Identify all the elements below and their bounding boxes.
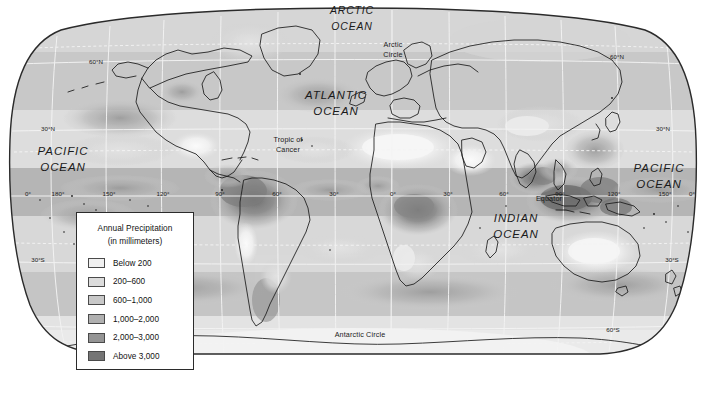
arctic-ocean-line2: OCEAN: [331, 20, 372, 32]
lon-30-west: 30°: [329, 190, 339, 197]
lon-120-west: 120°: [157, 190, 170, 197]
legend-row: 200–600: [88, 273, 193, 292]
lon-180-east: 0°: [689, 190, 695, 197]
tropic-of-cancer-line2: Cancer: [276, 145, 301, 154]
lon-90-west: 90°: [215, 190, 225, 197]
legend-swatch: [88, 333, 105, 343]
lat-30n-right: 30°N: [656, 125, 670, 132]
legend-label: 2,000–3,000: [113, 333, 159, 342]
antarctic-circle-line1: Antarctic Circle: [335, 330, 386, 339]
lon-120-east: 120°: [608, 190, 621, 197]
lat-30s-right: 30°S: [665, 256, 678, 263]
legend-row: 600–1,000: [88, 291, 193, 310]
legend-row: Above 3,000: [88, 347, 193, 366]
legend-swatch: [88, 314, 105, 324]
legend-label: 200–600: [113, 277, 145, 286]
lon-90-east: 90°: [555, 190, 565, 197]
legend-swatch: [88, 277, 105, 287]
lat-60n-left: 60°N: [89, 58, 103, 65]
indian-ocean-line1: INDIAN: [494, 212, 538, 224]
legend-swatch: [88, 258, 105, 268]
lon-60-west: 60°: [272, 190, 282, 197]
legend-title: Annual Precipitation (in millimeters): [77, 213, 193, 247]
arctic-circle-line1: Arctic: [384, 40, 403, 49]
legend-row: Below 200: [88, 254, 193, 273]
indian-ocean-line2: OCEAN: [493, 228, 538, 240]
tropic-of-cancer-line1: Tropic of: [273, 135, 302, 144]
legend-swatch: [88, 351, 105, 361]
legend-label: Above 3,000: [113, 352, 160, 361]
lon-60-east: 60°: [499, 190, 509, 197]
map-legend: Annual Precipitation (in millimeters) Be…: [76, 212, 194, 370]
legend-swatch: [88, 295, 105, 305]
atlantic-ocean-line2: OCEAN: [313, 105, 358, 117]
lat-30n-left: 30°N: [41, 125, 55, 132]
legend-row: 2,000–3,000: [88, 328, 193, 347]
lon-0-prime: 0°: [390, 190, 396, 197]
arctic-ocean-line1: ARCTIC: [329, 4, 374, 16]
legend-title-line1: Annual Precipitation: [77, 222, 193, 235]
lon-180-west: 180°: [52, 190, 65, 197]
legend-items: Below 200200–600600–1,0001,000–2,0002,00…: [77, 254, 193, 366]
legend-label: 1,000–2,000: [113, 315, 159, 324]
lon-30-east: 30°: [443, 190, 453, 197]
atlantic-ocean-line1: ATLANTIC: [304, 89, 367, 101]
lon-150-west: 150°: [103, 190, 116, 197]
pacific-ocean-west-line1: PACIFIC: [38, 145, 89, 157]
lat-60n-right: 60°N: [610, 53, 624, 60]
arctic-circle-line2: Circle: [383, 50, 402, 59]
legend-title-line2: (in millimeters): [77, 235, 193, 248]
pacific-ocean-east-line2: OCEAN: [636, 178, 681, 190]
pacific-ocean-east-line1: PACIFIC: [634, 162, 685, 174]
lon-150-east: 150°: [659, 190, 672, 197]
lon-0-left: 0°: [25, 190, 31, 197]
legend-label: Below 200: [113, 259, 152, 268]
legend-label: 600–1,000: [113, 296, 152, 305]
lat-30s-left: 30°S: [31, 256, 44, 263]
pacific-ocean-west-line2: OCEAN: [40, 161, 85, 173]
lat-60s-right: 60°S: [606, 326, 619, 333]
legend-row: 1,000–2,000: [88, 310, 193, 329]
